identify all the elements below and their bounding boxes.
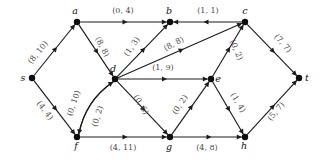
edge-arrowhead-d-e: [203, 76, 208, 81]
node-label-b: b: [166, 5, 172, 16]
edge-label-f-g: (4, 11): [110, 143, 137, 152]
node-t: [296, 75, 302, 81]
node-label-d: d: [110, 63, 116, 74]
edge-arrowhead-mid-s-f: [52, 105, 57, 111]
edge-label-a-b: (0, 4): [112, 6, 134, 15]
node-label-h: h: [241, 140, 247, 151]
edge-label-g-h: (4, 8): [196, 143, 218, 152]
edge-arrowhead-mid-d-e: [162, 76, 167, 81]
node-label-a: a: [72, 5, 78, 16]
edge-arrowhead-mid-f-g: [123, 134, 128, 139]
edge-label-s-a: (8, 10): [26, 39, 50, 65]
edge-label-d-g: (0, 6): [132, 93, 151, 116]
node-b: [167, 19, 173, 25]
flow-network-diagram: sabcdetfgh (8, 10)(4, 4)(0, 4)(8, 8)(1, …: [0, 0, 327, 166]
node-label-f: f: [73, 140, 79, 151]
edge-label-c-t: (7, 7): [272, 32, 293, 54]
edge-arrowhead-d-f: [77, 129, 82, 134]
edge-arrowhead-mid-a-b: [123, 19, 128, 24]
edge-arrowhead-f-g: [162, 134, 167, 139]
edge-arrowhead-g-h: [237, 134, 242, 139]
edge-arrowhead-f-d: [108, 82, 114, 87]
edge-label-d-e: (1, 9): [152, 63, 174, 72]
edge-label-f-d: (0, 10): [65, 89, 82, 117]
node-g: [167, 134, 173, 140]
edge-arrowhead-mid-g-h: [207, 134, 212, 139]
flow-network-canvas: sabcdetfgh (8, 10)(4, 4)(0, 4)(8, 8)(1, …: [0, 0, 327, 166]
edge-label-e-h: (1, 4): [229, 91, 248, 114]
edge-arrowhead-mid-c-b: [204, 19, 209, 24]
edge-label-a-d: (8, 8): [93, 35, 111, 58]
edge-label-e-c: (0, 2): [228, 38, 245, 61]
node-e: [208, 76, 214, 82]
node-s: [29, 75, 35, 81]
edge-label-d-f: (0, 2): [90, 105, 105, 128]
node-c: [242, 19, 248, 25]
edge-arrowhead-a-b: [162, 19, 167, 24]
node-label-s: s: [21, 72, 26, 83]
node-label-c: c: [242, 5, 248, 16]
edge-label-s-f: (4, 4): [35, 99, 55, 121]
edge-arrowhead-mid-g-e: [188, 105, 193, 111]
edge-arrowhead-c-b: [173, 19, 178, 24]
edge-arrowhead-mid-a-d: [93, 48, 98, 54]
node-a: [74, 19, 80, 25]
node-label-e: e: [215, 73, 221, 84]
edge-arrowhead-g-e: [204, 82, 209, 88]
node-label-g: g: [166, 141, 172, 152]
edge-label-c-b: (1, 1): [197, 6, 219, 15]
node-d: [112, 76, 118, 82]
edge-arrowhead-s-f: [70, 129, 75, 135]
node-label-t: t: [305, 72, 309, 83]
